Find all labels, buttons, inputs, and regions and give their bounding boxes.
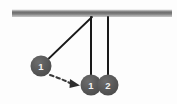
- resting-ball-1-label: 1: [88, 80, 94, 91]
- resting-ball-2-label: 2: [105, 80, 110, 91]
- pendulum-diagram: 1 1 2: [0, 0, 177, 104]
- raised-ball-label: 1: [38, 61, 44, 72]
- raised-ball: 1: [31, 56, 52, 77]
- resting-ball-2: 2: [98, 75, 119, 96]
- support-beam: [12, 9, 172, 17]
